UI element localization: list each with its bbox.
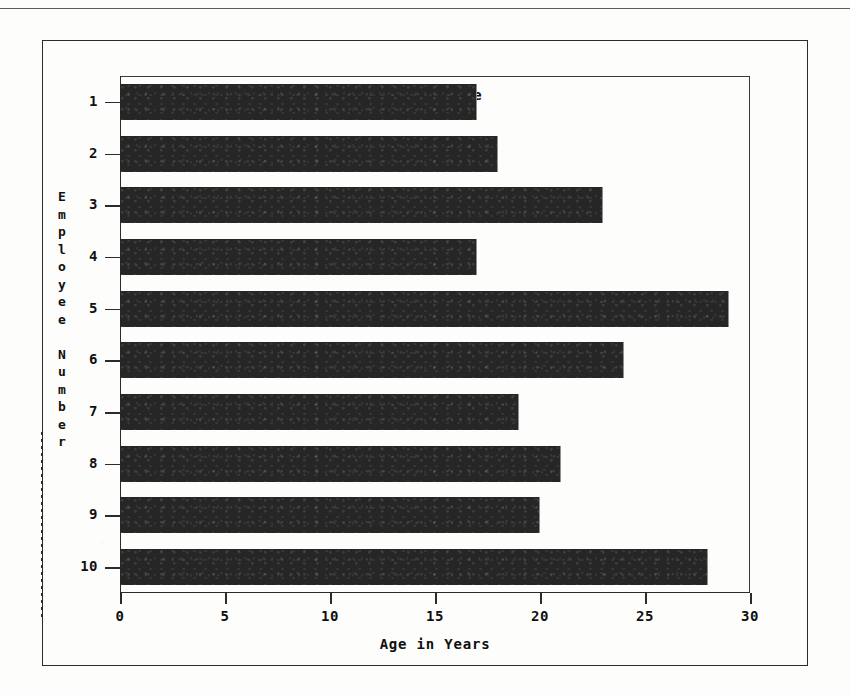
bar-row [120,239,477,275]
y-axis-tick-label: 5 [52,300,98,316]
y-axis-tick-label: 7 [52,403,98,419]
x-axis-tick [750,593,752,604]
y-axis-tick [105,102,120,104]
page-top-rule [0,8,850,9]
x-axis-tick-label: 25 [625,608,665,624]
bar-employee-10 [120,549,708,585]
bar-employee-9 [120,497,540,533]
bar-row [120,136,498,172]
x-axis-tick-label: 5 [205,608,245,624]
y-axis-title-char [52,328,72,346]
bar-row [120,291,729,327]
x-axis-tick [540,593,542,604]
y-axis-title-char: r [52,433,72,451]
bar-row [120,342,624,378]
y-axis-tick [105,567,120,569]
y-axis-tick [105,257,120,259]
bar-employee-5 [120,291,729,327]
y-axis-tick [105,205,120,207]
x-axis-title: Age in Years [120,636,750,652]
x-axis-tick-label: 15 [415,608,455,624]
bar-row [120,497,540,533]
bar-employee-1 [120,84,477,120]
y-axis-tick-label: 6 [52,351,98,367]
y-axis-tick-label: 9 [52,506,98,522]
x-axis-tick-label: 30 [730,608,770,624]
y-axis-title-char: m [52,381,72,399]
y-axis-tick [105,309,120,311]
y-axis-tick-label: 10 [52,558,98,574]
bar-row [120,394,519,430]
x-axis-tick [645,593,647,604]
bar-employee-8 [120,446,561,482]
bar-row [120,549,708,585]
bar-employee-4 [120,239,477,275]
y-axis-tick [105,515,120,517]
bar-row [120,84,477,120]
x-axis-tick [120,593,122,604]
y-axis-tick-label: 2 [52,145,98,161]
bar-employee-7 [120,394,519,430]
chart-page: Employee Age Employee Number 12345678910… [0,0,850,696]
x-axis-tick-label: 20 [520,608,560,624]
x-axis-tick-label: 0 [100,608,140,624]
y-axis-tick-label: 3 [52,196,98,212]
x-axis-tick [435,593,437,604]
y-axis-tick [105,154,120,156]
y-axis-tick-label: 8 [52,455,98,471]
y-axis-title-char: y [52,276,72,294]
y-axis-title-char: p [52,223,72,241]
bar-employee-2 [120,136,498,172]
y-axis-tick [105,464,120,466]
y-axis-tick [105,360,120,362]
y-axis-tick-label: 1 [52,93,98,109]
bar-employee-3 [120,187,603,223]
bar-row [120,187,603,223]
x-axis-tick [225,593,227,604]
y-axis-tick [105,412,120,414]
x-axis-tick-label: 10 [310,608,350,624]
x-axis-tick [330,593,332,604]
y-axis-tick-label: 4 [52,248,98,264]
bar-employee-6 [120,342,624,378]
bar-row [120,446,561,482]
